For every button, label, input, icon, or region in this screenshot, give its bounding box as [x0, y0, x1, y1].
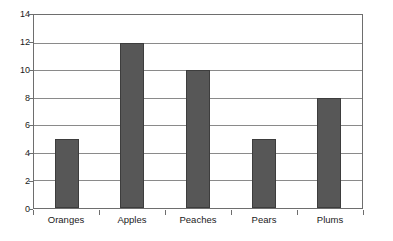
- bar-plums: [317, 98, 341, 208]
- plot-area: [33, 14, 363, 209]
- y-axis-tick-label-12: 12: [4, 37, 30, 46]
- y-axis-tick-label-8: 8: [4, 93, 30, 102]
- x-axis-label-apples: Apples: [99, 215, 165, 225]
- y-axis-tick-label-0: 0: [4, 205, 30, 214]
- bar-chart: 0 2 4 6 8 10 12 14 Oranges Apples Peache…: [0, 0, 393, 241]
- bar-oranges: [55, 139, 79, 208]
- bar-apples: [120, 43, 144, 208]
- y-axis-tick-label-6: 6: [4, 121, 30, 130]
- x-axis-tick-mark-5: [363, 210, 364, 215]
- bar-peaches: [186, 70, 210, 208]
- y-axis-tick-label-14: 14: [4, 10, 30, 19]
- x-axis-label-pears: Pears: [231, 215, 297, 225]
- y-axis-tick-label-2: 2: [4, 177, 30, 186]
- gridline-12: [34, 43, 362, 44]
- y-axis-tick-label-4: 4: [4, 149, 30, 158]
- y-axis-tick-label-10: 10: [4, 65, 30, 74]
- x-axis-label-peaches: Peaches: [165, 215, 231, 225]
- x-axis-label-oranges: Oranges: [33, 215, 99, 225]
- x-axis-label-plums: Plums: [297, 215, 363, 225]
- bar-pears: [252, 139, 276, 208]
